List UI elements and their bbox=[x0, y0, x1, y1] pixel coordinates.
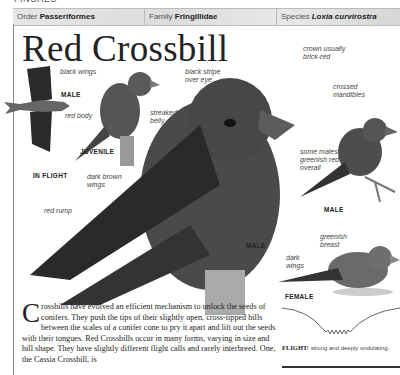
label-line: black stripe bbox=[185, 68, 220, 75]
female-bird-image bbox=[278, 240, 400, 300]
order-cell: Order Passeriformes bbox=[13, 9, 145, 25]
label-dark-wings: darkwings bbox=[286, 254, 304, 270]
divider bbox=[282, 366, 400, 368]
caption-male-main: MALE bbox=[246, 242, 266, 249]
species-value: Loxia curvirostra bbox=[312, 12, 377, 21]
label-line: breast bbox=[320, 241, 339, 248]
label-line: some males bbox=[300, 148, 338, 155]
label-line: mandibles bbox=[333, 91, 365, 98]
label-line: greenish red bbox=[300, 156, 339, 163]
species-label: Species bbox=[281, 12, 309, 21]
flight-caption: FLIGHT: strong and deeply undulating. bbox=[282, 344, 389, 351]
species-cell: Species Loxia curvirostra bbox=[277, 9, 400, 25]
label-red-rump: red rump bbox=[44, 207, 72, 215]
label-dark-brown-wings: dark brownwings bbox=[87, 173, 122, 189]
label-line: wings bbox=[286, 262, 304, 269]
label-line: dark bbox=[286, 254, 300, 261]
label-greenish-breast: greenishbreast bbox=[320, 233, 347, 249]
flight-label: FLIGHT: bbox=[282, 344, 309, 351]
label-line: over eye bbox=[185, 76, 212, 83]
label-line: brick-red bbox=[303, 53, 330, 60]
drop-cap: C bbox=[22, 302, 40, 324]
family-cell: Family Fringillidae bbox=[145, 9, 277, 25]
body-text: rossbills have evolved an efficient mech… bbox=[22, 302, 275, 364]
label-line: crown usually bbox=[303, 45, 345, 52]
order-value: Passeriformes bbox=[40, 12, 95, 21]
label-line: overall bbox=[300, 164, 321, 171]
family-value: Fringillidae bbox=[175, 12, 218, 21]
caption-female: FEMALE bbox=[285, 293, 314, 300]
order-label: Order bbox=[17, 12, 37, 21]
taxonomy-bar: Order Passeriformes Family Fringillidae … bbox=[13, 8, 400, 26]
flight-description: strong and deeply undulating. bbox=[311, 345, 390, 351]
caption-male-right: MALE bbox=[324, 206, 344, 213]
male-main-bird-image bbox=[20, 55, 300, 315]
flight-pattern-diagram bbox=[282, 306, 400, 342]
label-black-stripe: black stripeover eye bbox=[185, 68, 220, 84]
label-line: wings bbox=[87, 181, 105, 188]
label-some-males: some malesgreenish redoverall bbox=[300, 148, 339, 172]
label-line: crossed bbox=[333, 83, 358, 90]
label-line: dark brown bbox=[87, 173, 122, 180]
label-crossed-mandibles: crossedmandibles bbox=[333, 83, 365, 99]
body-paragraph: Crossbills have evolved an efficient mec… bbox=[22, 302, 280, 366]
section-title-cut: FINCHES bbox=[14, 0, 57, 4]
label-crown: crown usuallybrick-red bbox=[303, 45, 345, 61]
label-line: greenish bbox=[320, 233, 347, 240]
family-label: Family bbox=[149, 12, 173, 21]
